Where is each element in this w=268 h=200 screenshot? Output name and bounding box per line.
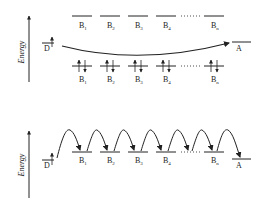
donor-label: D [44, 161, 50, 170]
svg-text:B4: B4 [163, 156, 171, 166]
hop-arrow [114, 130, 134, 151]
bridge-lower-level [156, 60, 176, 72]
svg-text:B2: B2 [107, 21, 115, 31]
svg-text:Bn: Bn [211, 21, 219, 31]
svg-text:Bn: Bn [211, 156, 219, 166]
bridge-lower-level [128, 60, 148, 72]
top-panel: Energy D A B1 B2 B3 B4 Bn [17, 16, 251, 85]
svg-text:B2: B2 [107, 75, 115, 85]
bridge-lower-level [72, 60, 92, 72]
bridge-lower-level [204, 60, 224, 72]
bridge-upper-labels: B1 B2 B3 B4 Bn [79, 21, 219, 31]
bridge-lower-levels [72, 60, 224, 72]
bridge-lower-level [100, 60, 120, 72]
hop-arrow [217, 130, 240, 157]
svg-text:B4: B4 [163, 75, 171, 85]
bottom-panel: Energy D B1 B2 B3 B4 Bn A [17, 130, 251, 198]
svg-text:B3: B3 [135, 21, 143, 31]
svg-text:B3: B3 [135, 156, 143, 166]
hopping-arrows [57, 130, 240, 158]
svg-text:B1: B1 [79, 75, 87, 85]
svg-text:B1: B1 [79, 156, 87, 166]
svg-text:B1: B1 [79, 21, 87, 31]
svg-text:B2: B2 [107, 156, 115, 166]
hop-arrow [57, 130, 80, 158]
donor-label: D [44, 44, 50, 53]
svg-text:B4: B4 [163, 21, 171, 31]
energy-axis-label: Energy [17, 40, 26, 64]
acceptor-label: A [236, 161, 242, 170]
hop-arrow [141, 130, 161, 151]
hop-arrow [87, 130, 107, 151]
svg-text:B3: B3 [135, 75, 143, 85]
bridge-labels: B1 B2 B3 B4 Bn [79, 156, 219, 166]
bridge-lower-labels: B1 B2 B3 B4 Bn [79, 75, 219, 85]
energy-level-diagram: Energy D A B1 B2 B3 B4 Bn [0, 0, 268, 200]
hop-arrow [168, 130, 188, 151]
acceptor-label: A [236, 44, 242, 53]
svg-text:Bn: Bn [211, 75, 219, 85]
superexchange-arrow [62, 43, 229, 55]
hop-arrow [192, 130, 212, 151]
energy-axis-label: Energy [17, 153, 26, 177]
